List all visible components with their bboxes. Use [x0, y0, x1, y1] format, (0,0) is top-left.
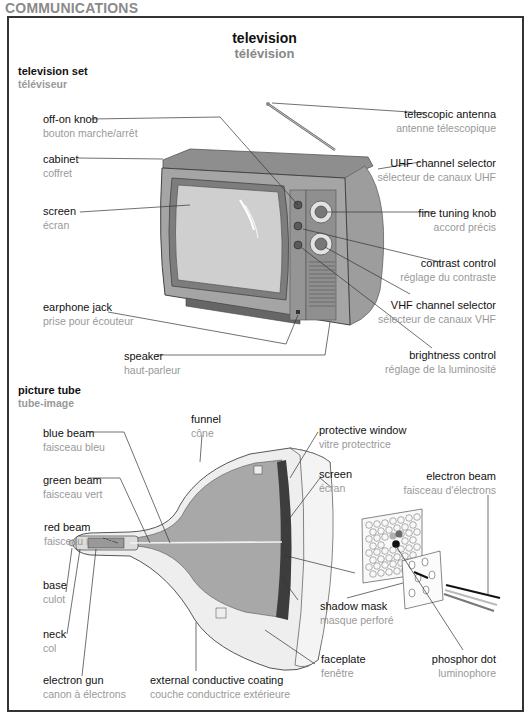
label-phosphor-dot: phosphor dot luminophore	[432, 652, 496, 680]
label-screen: screen écran	[43, 204, 76, 232]
label-faceplate: faceplate fenêtre	[321, 652, 366, 680]
label-external-conductive-coating: external conductive coating couche condu…	[150, 673, 290, 701]
label-off-on-knob: off-on knob bouton marche/arrêt	[43, 112, 138, 140]
label-base: base culot	[43, 578, 67, 606]
label-earphone-jack: earphone jack prise pour écouteur	[43, 300, 133, 328]
section-heading-television-set-fr: téléviseur	[18, 78, 67, 90]
label-shadow-mask: shadow mask masque perforé	[320, 599, 394, 627]
label-vhf-channel-selector: VHF channel selector sélecteur de canaux…	[378, 298, 496, 326]
label-contrast-control: contrast control réglage du contraste	[400, 256, 496, 284]
label-tube-screen: screen écran	[319, 467, 352, 495]
label-neck: neck col	[43, 627, 66, 655]
label-green-beam: green beam faisceau vert	[43, 473, 103, 501]
label-cabinet: cabinet coffret	[43, 152, 78, 180]
label-blue-beam: blue beam faisceau bleu	[43, 426, 105, 454]
label-red-beam: red beam faisceau rouge	[44, 520, 113, 548]
label-protective-window: protective window vitre protectrice	[319, 423, 406, 451]
label-funnel: funnel cône	[191, 412, 221, 440]
section-heading-picture-tube-fr: tube-image	[18, 397, 74, 409]
label-speaker: speaker haut-parleur	[124, 349, 181, 377]
section-heading-television-set: television set	[18, 65, 88, 77]
label-uhf-channel-selector: UHF channel selector sélecteur de canaux…	[378, 156, 496, 184]
picture-tube-illustration	[69, 448, 333, 670]
label-telescopic-antenna: telescopic antenna antenne télescopique	[396, 107, 496, 135]
label-brightness-control: brightness control réglage de la luminos…	[385, 348, 496, 376]
section-heading-picture-tube: picture tube	[18, 384, 81, 396]
label-electron-gun: electron gun canon à électrons	[43, 673, 126, 701]
television-set-illustration	[161, 102, 384, 325]
shadow-mask-detail	[362, 509, 500, 611]
label-fine-tuning-knob: fine tuning knob accord précis	[418, 206, 496, 234]
label-electron-beam: electron beam faisceau d'électrons	[404, 469, 496, 497]
